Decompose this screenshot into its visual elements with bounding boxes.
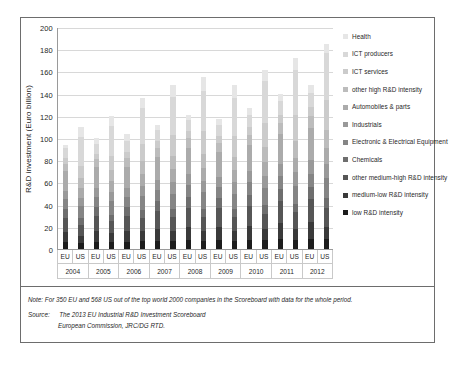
bar-segment [109, 215, 115, 222]
bar-segment [170, 97, 176, 135]
legend-item[interactable]: ICT services [343, 63, 451, 81]
bar-segment [124, 134, 130, 142]
bar-segment [324, 148, 330, 164]
bar [308, 85, 314, 249]
chart-figure: R&D investment (Euro billion) 0204060801… [20, 17, 435, 343]
bar-segment [94, 159, 100, 167]
legend-item[interactable]: Chemicals [343, 151, 451, 169]
note-label: Note: [28, 296, 43, 303]
bar-segment [293, 212, 299, 229]
legend-label: Industrials [352, 121, 382, 129]
bar-segment [232, 231, 238, 241]
bar [278, 94, 284, 249]
footnotes: Note: For 350 EU and 568 US out of the t… [28, 294, 428, 331]
bar-segment [201, 77, 207, 91]
bar-segment [201, 231, 207, 241]
bar-segment [262, 70, 268, 81]
legend-item[interactable]: Electronic & Electrical Equipment [343, 134, 451, 152]
bar-segment [324, 239, 330, 249]
y-axis-tick: 200 [40, 24, 53, 33]
x-axis: EUUSEUUSEUUSEUUSEUUSEUUSEUUSEUUSEUUS 200… [57, 250, 333, 280]
bar-segment [94, 242, 100, 249]
bar-segment [324, 198, 330, 208]
bar-segment [63, 232, 69, 242]
legend-swatch-icon [343, 87, 348, 92]
y-axis-tick: 100 [40, 135, 53, 144]
bar-segment [155, 130, 161, 141]
legend-item[interactable]: Automobiles & parts [343, 98, 451, 116]
bar-segment [232, 136, 238, 157]
bar-segment [201, 91, 207, 131]
bar-segment [293, 240, 299, 249]
bar-segment [140, 231, 146, 241]
x-axis-region-label: US [257, 250, 272, 264]
legend-label: medium-low R&D intensity [352, 191, 428, 199]
bar-segment [324, 44, 330, 53]
bar-segment [262, 123, 268, 147]
bar-segment [78, 225, 84, 236]
bar-segment [324, 164, 330, 178]
bar-segment [262, 81, 268, 122]
legend-swatch-icon [343, 140, 348, 145]
legend-label: ICT services [352, 68, 388, 76]
x-axis-region-label: EU [89, 250, 104, 264]
y-axis-tick: 60 [44, 179, 53, 188]
bar [124, 134, 130, 249]
legend-swatch-icon [343, 210, 348, 215]
bar-segment [201, 209, 207, 217]
bar-segment [170, 209, 176, 217]
bar-segment [308, 116, 314, 128]
bar-segment [247, 195, 253, 206]
bar-segment [201, 217, 207, 231]
bar-segment [124, 216, 130, 232]
bar-segment [324, 208, 330, 227]
bar-segment [78, 218, 84, 225]
bar-segment [140, 210, 146, 218]
bar-segment [216, 125, 222, 136]
bar-segment [140, 144, 146, 162]
bar-segment [186, 208, 192, 227]
bar-segment [278, 94, 284, 102]
bar-segment [78, 166, 84, 178]
y-axis-tick: 0 [49, 246, 53, 255]
legend-swatch-icon [343, 69, 348, 74]
bar-segment [63, 171, 69, 191]
bar-segment [78, 243, 84, 249]
x-axis-region-label: EU [57, 250, 73, 264]
bar-segment [124, 167, 130, 188]
bar-segment [247, 145, 253, 172]
bar-segment [308, 85, 314, 93]
bar-segment [124, 231, 130, 242]
bar-segment [63, 191, 69, 199]
legend-label: Electronic & Electrical Equipment [352, 138, 448, 146]
bar-segment [216, 177, 222, 187]
bar [216, 119, 222, 249]
y-axis-tick: 20 [44, 223, 53, 232]
bar [324, 44, 330, 249]
legend-item[interactable]: low R&D intensity [343, 204, 451, 222]
bar-segment [94, 144, 100, 154]
bar-segment [308, 222, 314, 239]
bar-segment [94, 207, 100, 216]
bar-segment [155, 241, 161, 249]
x-axis-region-label: US [165, 250, 180, 264]
bar [262, 70, 268, 249]
legend-item[interactable]: other medium-high R&D intensity [343, 169, 451, 187]
x-axis-year-label: 2008 [180, 264, 211, 279]
bar-segment [124, 207, 130, 216]
bar [155, 125, 161, 249]
x-axis-year-label: 2005 [89, 264, 120, 279]
bar-segment [78, 206, 84, 218]
bar-segment [324, 130, 330, 148]
legend-item[interactable]: Health [343, 28, 451, 46]
bar-segment [308, 239, 314, 249]
legend-item[interactable]: other high R&D intensity [343, 81, 451, 99]
footnote-divider [21, 286, 434, 287]
bar-segment [293, 204, 299, 213]
legend-item[interactable]: medium-low R&D intensity [343, 186, 451, 204]
legend-item[interactable]: ICT producers [343, 46, 451, 64]
bar-segment [262, 147, 268, 163]
bar-segment [109, 156, 115, 170]
legend-item[interactable]: Industrials [343, 116, 451, 134]
bar-segment [140, 98, 146, 108]
